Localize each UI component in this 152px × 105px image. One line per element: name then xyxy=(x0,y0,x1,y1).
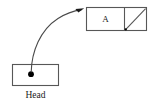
node-box xyxy=(87,8,147,31)
diagram-canvas: A Head xyxy=(0,0,152,105)
head-label: Head xyxy=(25,90,45,100)
curved-arrow-icon xyxy=(31,10,81,73)
arrowhead-icon xyxy=(75,8,84,12)
node-value-label: A xyxy=(102,14,109,24)
null-slash-anchor-dot xyxy=(125,28,127,30)
linked-list-diagram: A Head xyxy=(0,0,152,105)
null-pointer-slash-icon xyxy=(126,9,146,30)
head-pointer-box xyxy=(13,65,59,86)
